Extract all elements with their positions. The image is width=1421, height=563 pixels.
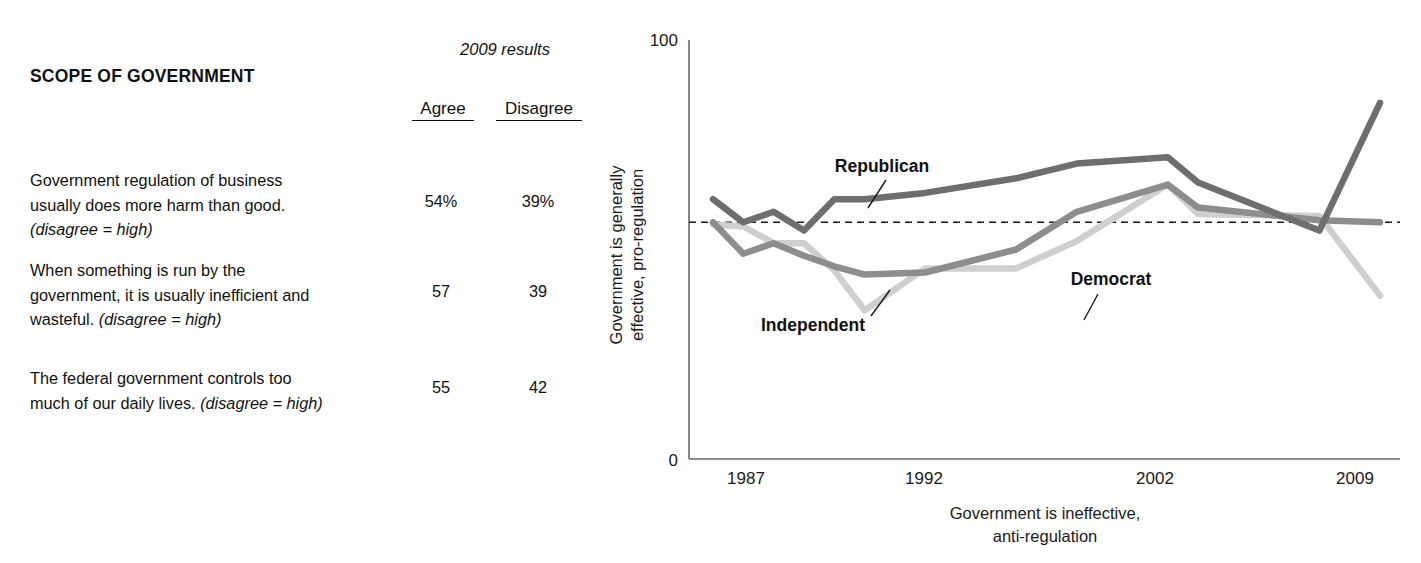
- x-tick-label-2002: 2002: [1136, 469, 1174, 488]
- statement-line-3: wasteful.: [30, 310, 99, 328]
- series-label-independent: Independent: [761, 315, 865, 335]
- statement-text: Government regulation of business usuall…: [30, 168, 380, 242]
- y-axis-title-line-2: effective, pro-regulation: [628, 169, 646, 341]
- series-line-democrat: [713, 185, 1380, 275]
- statement-note: (disagree = high): [200, 394, 323, 412]
- statement-line-1: The federal government controls too: [30, 369, 292, 387]
- statement-line-1: Government regulation of business: [30, 171, 283, 189]
- x-tick-label-2009: 2009: [1336, 469, 1374, 488]
- results-year-caption: 2009 results: [420, 40, 590, 59]
- y-axis-title: Government is generally effective, pro-r…: [607, 165, 646, 345]
- column-header-disagree: Disagree: [496, 99, 582, 121]
- statement-line-2: government, it is usually inefficient an…: [30, 286, 309, 304]
- chart-svg: 100 0 Government is generally effective,…: [590, 0, 1421, 563]
- cell-disagree: 42: [492, 378, 584, 397]
- statement-line-2: usually does more harm than good.: [30, 196, 285, 214]
- leader-line-democrat: [1084, 294, 1098, 320]
- x-axis-title-line-2: anti-regulation: [993, 527, 1098, 545]
- statement-line-1: When something is run by the: [30, 261, 245, 279]
- cell-disagree: 39%: [492, 192, 584, 211]
- x-axis-title-line-1: Government is ineffective,: [950, 504, 1140, 522]
- column-header-agree: Agree: [412, 99, 474, 121]
- statement-text: The federal government controls too much…: [30, 366, 380, 415]
- statement-line-2: much of our daily lives.: [30, 394, 200, 412]
- y-tick-label-0: 0: [669, 451, 678, 470]
- cell-agree: 57: [398, 282, 484, 301]
- x-tick-label-1992: 1992: [905, 469, 943, 488]
- series-label-republican: Republican: [835, 156, 929, 176]
- statement-note: (disagree = high): [30, 220, 153, 238]
- series-label-democrat: Democrat: [1071, 269, 1152, 289]
- series-line-independent: [713, 185, 1380, 311]
- scope-of-government-table-panel: 2009 results SCOPE OF GOVERNMENT Agree D…: [0, 0, 620, 563]
- x-axis-title: Government is ineffective, anti-regulati…: [950, 504, 1140, 545]
- cell-agree: 55: [398, 378, 484, 397]
- series-line-republican: [713, 103, 1380, 231]
- y-tick-label-100: 100: [650, 31, 678, 50]
- trend-line-chart-panel: 100 0 Government is generally effective,…: [590, 0, 1421, 563]
- page-title: SCOPE OF GOVERNMENT: [30, 66, 255, 87]
- x-tick-label-1987: 1987: [727, 469, 765, 488]
- cell-disagree: 39: [492, 282, 584, 301]
- cell-agree: 54%: [398, 192, 484, 211]
- y-axis-title-line-1: Government is generally: [607, 165, 625, 345]
- statement-note: (disagree = high): [99, 310, 222, 328]
- statement-text: When something is run by the government,…: [30, 258, 380, 332]
